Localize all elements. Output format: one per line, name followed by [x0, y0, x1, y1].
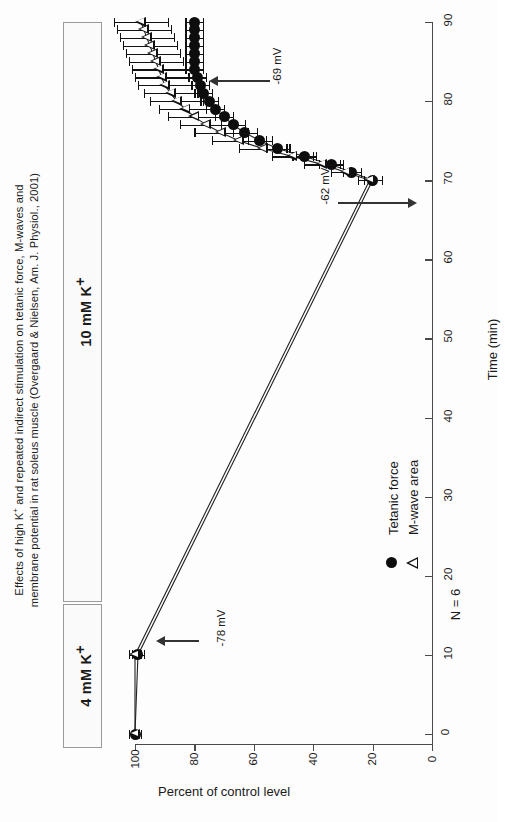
error-bar-cap: [194, 128, 195, 137]
triangle-inner: [140, 26, 147, 32]
triangle-inner: [259, 145, 266, 151]
error-bar-cap: [382, 176, 383, 185]
error-bar-cap: [185, 41, 186, 50]
data-point-m-wave-area: [364, 175, 375, 185]
error-bar-cap: [159, 105, 160, 114]
triangle-inner: [289, 152, 296, 158]
data-point-m-wave-area: [215, 127, 226, 137]
error-bar-cap: [272, 152, 273, 161]
error-bar-cap: [239, 144, 240, 153]
triangle-inner: [202, 121, 209, 127]
condition-4mm-sup: +: [72, 645, 88, 654]
legend-n-value: N = 6: [440, 597, 471, 612]
error-bar-cap: [141, 650, 142, 659]
annot-minus69-arrow-icon: [218, 80, 270, 82]
error-bar-cap: [272, 136, 273, 145]
error-bar-cap: [180, 120, 181, 129]
triangle-inner: [158, 73, 165, 79]
error-bar-cap: [123, 41, 124, 50]
condition-box-10mm: 10 mM K+: [63, 22, 102, 602]
figure-title: Effects of high K+ and repeated indirect…: [5, 0, 45, 785]
triangle-inner: [173, 97, 180, 103]
error-bar-cap: [224, 105, 225, 114]
error-bar-cap: [203, 57, 204, 66]
error-bar-cap: [185, 65, 186, 74]
error-bar-cap: [144, 89, 145, 98]
title-l1-part-a: Effects of high K: [13, 513, 25, 596]
triangle-inner: [318, 160, 325, 166]
error-bar-cap: [138, 81, 139, 90]
error-bar-cap: [212, 105, 213, 114]
annot-minus62: -62 mV: [306, 180, 343, 192]
error-bar-cap: [266, 136, 267, 145]
triangle-inner: [342, 168, 349, 174]
error-bar-cap: [212, 89, 213, 98]
annot-minus78-text: -78 mV: [215, 609, 227, 646]
condition-label-10mm: 10 mM K+: [72, 277, 94, 347]
legend-open-triangle-icon: [406, 557, 418, 569]
error-bar-cap: [188, 73, 189, 82]
error-bar-cap: [114, 18, 115, 27]
error-bar-cap: [221, 112, 222, 121]
error-bar-cap: [141, 730, 142, 739]
error-bar-cap: [358, 176, 359, 185]
error-bar-cap: [203, 18, 204, 27]
condition-label-4mm: 4 mM K+: [72, 645, 94, 706]
error-bar-cap: [120, 33, 121, 42]
legend-label-2: M-wave area: [406, 460, 421, 535]
title-l1-part-b: and repeated indirect stimulation on tet…: [13, 184, 25, 508]
error-bar-cap: [331, 168, 332, 177]
x-axis-title: Time (min): [462, 342, 505, 357]
title-l1-superscript: +: [11, 508, 20, 513]
error-bar-cap: [144, 650, 145, 659]
error-bar-cap: [185, 25, 186, 34]
condition-10mm-sup: +: [72, 277, 88, 286]
error-bar-cap: [185, 49, 186, 58]
error-bar-cap: [168, 112, 169, 121]
triangle-inner: [149, 50, 156, 56]
annot-minus69-text: -69 mV: [271, 47, 283, 84]
error-bar-cap: [203, 65, 204, 74]
data-point-tetanic-force: [189, 17, 200, 28]
error-bar-cap: [174, 33, 175, 42]
error-bar-cap: [177, 41, 178, 50]
figure-title-line-2: membrane potential in rat soleus muscle …: [27, 173, 42, 607]
error-bar-cap: [257, 128, 258, 137]
error-bar-cap: [203, 41, 204, 50]
error-bar-cap: [245, 120, 246, 129]
error-bar-cap: [286, 144, 287, 153]
data-point-m-wave-area: [129, 649, 140, 659]
error-bar-cap: [132, 65, 133, 74]
triangle-inner: [217, 129, 224, 135]
annot-minus78-arrow-icon: [165, 640, 199, 642]
error-bar-cap: [150, 97, 151, 106]
error-bar-cap: [185, 33, 186, 42]
data-series-layer: [110, 12, 450, 772]
error-bar-cap: [212, 136, 213, 145]
plot-area: 0102030405060708090 020406080100 Time (m…: [110, 12, 450, 772]
triangle-inner: [146, 42, 153, 48]
error-bar-cap: [197, 89, 198, 98]
error-bar-cap: [340, 160, 341, 169]
error-bar-cap: [203, 97, 204, 106]
error-bar-cap: [203, 49, 204, 58]
error-bar-cap: [191, 81, 192, 90]
triangle-inner: [131, 651, 138, 657]
data-point-m-wave-area: [233, 135, 244, 145]
data-point-m-wave-area: [340, 167, 351, 177]
error-bar-cap: [248, 128, 249, 137]
error-bar-cap: [129, 57, 130, 66]
error-bar-cap: [126, 49, 127, 58]
error-bar-cap: [135, 73, 136, 82]
condition-10mm-text: 10 mM K: [77, 286, 93, 347]
error-bar-cap: [218, 97, 219, 106]
condition-4mm-text: 4 mM K: [77, 654, 93, 707]
error-bar-cap: [168, 18, 169, 27]
series-line-1: [135, 22, 370, 734]
triangle-inner: [191, 113, 198, 119]
triangle-inner: [161, 81, 168, 87]
error-bar-cap: [304, 160, 305, 169]
series-connector-lines: [110, 12, 450, 772]
legend-label-1: Tetanic force: [386, 461, 401, 535]
